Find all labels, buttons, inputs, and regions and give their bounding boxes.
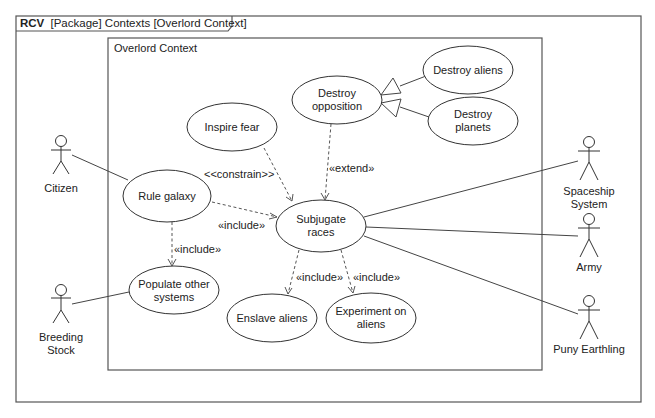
actor-label: Breeding — [39, 331, 83, 343]
stick-figure-icon — [578, 214, 600, 258]
use-case-label: aliens — [357, 318, 386, 330]
include-label-rule-populate: «include» — [174, 243, 221, 255]
use-case-destroy-aliens[interactable]: Destroy aliens — [423, 46, 513, 94]
use-case-label: Destroy — [318, 87, 356, 99]
gen-line-planets[interactable] — [400, 107, 429, 117]
use-case-label: Populate other — [138, 278, 210, 290]
use-case-rule-galaxy[interactable]: Rule galaxy — [123, 170, 211, 222]
boundary-title: Overlord Context — [114, 42, 197, 54]
assoc-citizen-rule-galaxy[interactable] — [72, 155, 128, 180]
include-label-enslave: «include» — [296, 271, 343, 283]
generalizations — [381, 78, 401, 117]
use-case-label: Subjugate — [296, 213, 346, 225]
use-case-populate-other-systems[interactable]: Populate other systems — [129, 266, 219, 314]
stick-figure-icon — [51, 136, 71, 175]
frame-title: RCV [Package] Contexts [Overlord Context… — [20, 17, 247, 29]
use-case-label: Destroy — [454, 108, 492, 120]
actor-army[interactable]: Army — [576, 214, 602, 274]
frame-name: [Package] Contexts [Overlord Context] — [50, 17, 246, 29]
assoc-subjugate-army[interactable] — [366, 227, 578, 236]
actor-label: Spaceship — [563, 185, 614, 197]
actor-label: Stock — [47, 344, 75, 356]
extend-label: «extend» — [329, 162, 374, 174]
actor-citizen[interactable]: Citizen — [44, 136, 78, 195]
use-case-label: opposition — [312, 100, 362, 112]
use-case-label: planets — [455, 121, 491, 133]
use-case-label: Enslave aliens — [237, 312, 308, 324]
actor-label: System — [571, 198, 608, 210]
use-case-label: races — [308, 226, 335, 238]
use-case-enslave-aliens[interactable]: Enslave aliens — [227, 294, 317, 342]
actor-label: Puny Earthling — [553, 343, 625, 355]
actor-puny-earthling[interactable]: Puny Earthling — [553, 296, 625, 356]
gen-line-aliens[interactable] — [400, 76, 426, 86]
assoc-breeding-stock-populate[interactable] — [72, 292, 129, 304]
use-case-label: Experiment on — [336, 305, 407, 317]
frame-kind: RCV — [20, 17, 45, 29]
use-case-diagram: RCV [Package] Contexts [Overlord Context… — [0, 0, 655, 418]
generalization-arrow-planets[interactable] — [381, 99, 401, 117]
use-case-label: Rule galaxy — [138, 190, 196, 202]
use-case-label: systems — [154, 291, 195, 303]
constrain-label: <<constrain>> — [204, 168, 274, 180]
use-case-subjugate-races[interactable]: Subjugate races — [276, 200, 366, 252]
include-rule-subjugate[interactable] — [212, 202, 277, 217]
generalization-arrow-aliens[interactable] — [381, 78, 401, 95]
use-case-destroy-opposition[interactable]: Destroy opposition — [292, 76, 382, 124]
include-label-experiment: «include» — [353, 271, 400, 283]
use-case-experiment-on-aliens[interactable]: Experiment on aliens — [326, 293, 416, 343]
assoc-subjugate-spaceship[interactable] — [364, 161, 578, 217]
actor-label: Citizen — [44, 182, 78, 194]
use-case-destroy-planets[interactable]: Destroy planets — [428, 97, 518, 145]
stick-figure-icon — [51, 285, 71, 324]
include-label-rule-subjugate: «include» — [218, 219, 265, 231]
use-case-label: Destroy aliens — [433, 64, 503, 76]
actor-label: Army — [576, 261, 602, 273]
stick-figure-icon — [578, 296, 600, 340]
stick-figure-icon — [578, 137, 600, 181]
use-case-inspire-fear[interactable]: Inspire fear — [187, 103, 277, 151]
actor-breeding-stock[interactable]: Breeding Stock — [39, 285, 83, 357]
use-case-label: Inspire fear — [204, 121, 259, 133]
actor-spaceship-system[interactable]: Spaceship System — [563, 137, 614, 211]
